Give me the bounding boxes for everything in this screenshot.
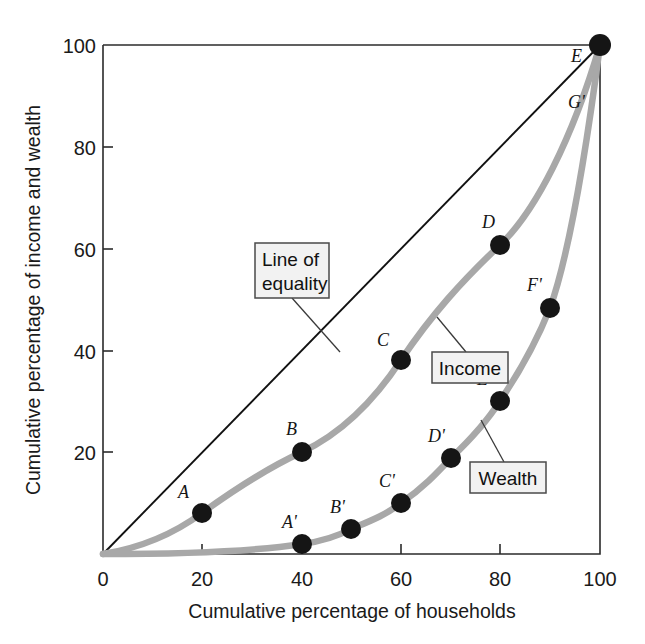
point-label-E: E xyxy=(570,46,582,66)
point-label-A-prime: A' xyxy=(281,512,298,532)
leader-line-wealth xyxy=(481,420,504,462)
x-tick-label-100: 100 xyxy=(583,568,616,590)
y-tick-label-20: 20 xyxy=(74,442,96,464)
callout-equality-line1: Line of xyxy=(262,249,320,270)
data-point-E-prime xyxy=(490,391,510,411)
leader-line-equality xyxy=(292,298,340,352)
callout-wealth-label: Wealth xyxy=(479,468,538,489)
y-axis-title: Cumulative percentage of income and weal… xyxy=(22,105,44,495)
data-point-D xyxy=(490,235,510,255)
data-point-A-prime xyxy=(292,534,312,554)
point-label-D: D xyxy=(481,212,495,232)
point-label-C-prime: C' xyxy=(379,471,396,491)
x-tick-label-0: 0 xyxy=(97,568,108,590)
point-label-B: B xyxy=(286,419,297,439)
leader-line-income xyxy=(437,317,466,352)
y-tick-label-60: 60 xyxy=(74,239,96,261)
callout-income: Income xyxy=(432,352,508,383)
point-label-D-prime: D' xyxy=(427,426,446,446)
callout-income-label: Income xyxy=(439,358,501,379)
callout-wealth: Wealth xyxy=(470,462,546,493)
x-tick-label-60: 60 xyxy=(390,568,412,590)
x-axis-title: Cumulative percentage of households xyxy=(188,600,516,622)
y-tick-label-40: 40 xyxy=(74,341,96,363)
chart-canvas: 100 80 60 40 20 0 20 40 60 80 100 Cumula… xyxy=(0,0,645,644)
y-axis-ticks xyxy=(103,147,113,452)
data-point-B-prime xyxy=(341,519,361,539)
data-point-F-prime xyxy=(540,298,560,318)
data-point-C xyxy=(391,350,411,370)
data-point-B xyxy=(292,442,312,462)
data-point-E xyxy=(589,34,611,56)
point-label-B-prime: B' xyxy=(330,497,346,517)
callout-equality-line2: equality xyxy=(262,273,328,294)
y-tick-label-80: 80 xyxy=(74,137,96,159)
x-tick-label-80: 80 xyxy=(489,568,511,590)
lorenz-curve-figure: 100 80 60 40 20 0 20 40 60 80 100 Cumula… xyxy=(0,0,645,644)
point-label-A: A xyxy=(177,482,190,502)
x-tick-label-20: 20 xyxy=(191,568,213,590)
callout-line-of-equality: Line of equality xyxy=(255,243,329,298)
data-point-A xyxy=(192,503,212,523)
data-point-D-prime xyxy=(441,448,461,468)
point-label-C: C xyxy=(377,330,390,350)
y-tick-label-100: 100 xyxy=(63,35,96,57)
data-point-C-prime xyxy=(391,493,411,513)
point-label-F-prime: F' xyxy=(526,275,543,295)
x-tick-label-40: 40 xyxy=(291,568,313,590)
point-label-G-prime: G' xyxy=(568,92,586,112)
